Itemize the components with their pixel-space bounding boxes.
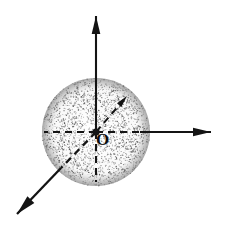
vertical-axis-arrowhead <box>92 16 101 34</box>
origin-label: O <box>96 131 109 148</box>
horizontal-axis-arrowhead <box>193 128 211 137</box>
coordinate-axes-sphere-diagram <box>0 0 225 232</box>
figure-canvas: O <box>0 0 225 232</box>
